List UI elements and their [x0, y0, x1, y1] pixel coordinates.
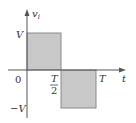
half-period-denominator: 2 [51, 85, 57, 96]
negative-pulse [61, 70, 96, 108]
positive-pulse [27, 33, 61, 70]
y-axis-arrow-icon [25, 9, 30, 16]
level-negative-label: −V [10, 103, 27, 114]
origin-label: 0 [15, 74, 21, 85]
period-label: T [99, 73, 107, 84]
half-period-numerator: T [51, 73, 59, 84]
square-wave-diagram: vi V −V 0 T 2 T t [0, 0, 136, 123]
level-positive-label: V [16, 29, 25, 40]
x-axis-arrow-icon [119, 68, 126, 73]
y-axis-label: vi [32, 8, 40, 21]
x-axis-label: t [122, 73, 127, 84]
